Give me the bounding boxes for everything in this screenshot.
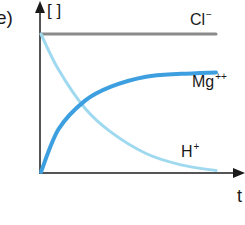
- y-axis-arrow-icon: [35, 1, 45, 13]
- label-cl: Cl−: [190, 9, 212, 29]
- label-h: H+: [181, 141, 199, 161]
- x-axis-label: t: [237, 186, 242, 207]
- chart-plot: [0, 0, 245, 225]
- x-axis-arrow-icon: [233, 168, 245, 178]
- label-mg: Mg++: [192, 71, 227, 91]
